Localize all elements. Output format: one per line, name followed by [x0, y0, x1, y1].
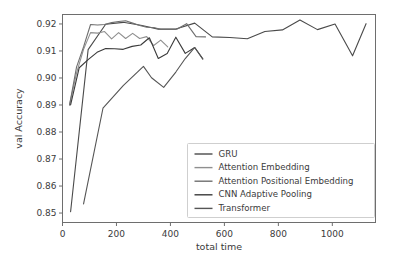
- y-tick-label: 0.89: [36, 100, 56, 110]
- y-tick-label: 0.92: [36, 19, 56, 29]
- series-line-transformer: [84, 47, 203, 203]
- y-tick-label: 0.91: [36, 46, 56, 56]
- chart-canvas: 020040060080010000.850.860.870.880.890.9…: [0, 0, 395, 265]
- x-tick-label: 0: [60, 229, 66, 239]
- y-tick-label: 0.90: [36, 73, 56, 83]
- x-tick-label: 400: [162, 229, 179, 239]
- y-tick-label: 0.85: [36, 208, 56, 218]
- x-tick-label: 600: [216, 229, 233, 239]
- legend-label-cnn-adaptive-pooling[interactable]: CNN Adaptive Pooling: [219, 189, 312, 199]
- legend-group[interactable]: GRUAttention EmbeddingAttention Position…: [188, 144, 375, 218]
- x-tick-label: 200: [108, 229, 125, 239]
- legend-label-transformer[interactable]: Transformer: [218, 203, 271, 213]
- x-tick-label: 1000: [321, 229, 344, 239]
- legend-label-attention-embedding[interactable]: Attention Embedding: [219, 162, 310, 172]
- y-tick-label: 0.87: [36, 154, 56, 164]
- y-tick-label: 0.88: [36, 127, 56, 137]
- x-axis-title: total time: [196, 241, 242, 252]
- y-tick-label: 0.86: [36, 181, 56, 191]
- legend-label-attention-positional-embedding[interactable]: Attention Positional Embedding: [219, 176, 354, 186]
- series-line-cnn-adaptive-pooling: [71, 37, 203, 105]
- x-tick-label: 800: [270, 229, 287, 239]
- figure-container: 020040060080010000.850.860.870.880.890.9…: [0, 0, 395, 265]
- series-line-attention-embedding: [70, 32, 168, 105]
- legend-label-gru[interactable]: GRU: [219, 149, 238, 159]
- y-axis-title: val Accuracy: [13, 88, 24, 149]
